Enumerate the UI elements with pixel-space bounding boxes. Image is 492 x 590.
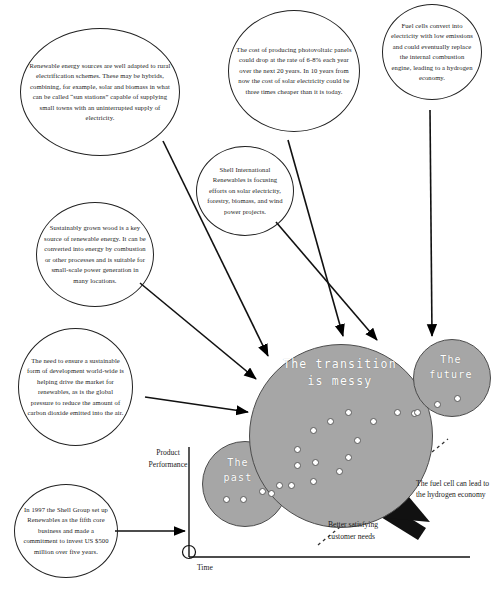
bubble-text: Shell International Renewables is focusi… <box>204 165 286 218</box>
bubble-photovoltaic-cost: The cost of producing photovoltaic panel… <box>228 10 360 132</box>
scenario-dot <box>310 427 317 434</box>
scenario-dot <box>310 478 317 485</box>
bubble-text: In 1997 the Shell Group set up Renewable… <box>22 505 110 558</box>
bubble-text: The cost of producing photovoltaic panel… <box>236 45 352 98</box>
scenario-dot <box>414 409 421 416</box>
bubble-text: The need to ensure a sustainable form of… <box>26 356 125 419</box>
y-axis-label: Product Performance <box>146 447 190 470</box>
scenario-dot <box>354 437 361 444</box>
scenario-dot <box>240 496 247 503</box>
fuel-cell-callout-label: The fuel cell can lead to the hydrogen e… <box>416 478 492 500</box>
scenario-dot <box>336 468 343 475</box>
y-axis-label-line1: Product <box>146 447 190 459</box>
connector-shellintl-to-transition <box>276 222 377 340</box>
scenario-dot <box>327 418 334 425</box>
y-axis-label-line2: Performance <box>146 459 190 471</box>
x-axis-label-text: Time <box>197 563 213 572</box>
connector-fuelcells-to-future <box>430 110 432 336</box>
scenario-dot <box>288 482 295 489</box>
scenario-circle-the-future <box>413 339 491 417</box>
scenario-dot <box>268 490 275 497</box>
scenario-dot <box>370 418 377 425</box>
bubble-renewable-energy-sources: Renewable energy sources are well adapte… <box>20 28 180 156</box>
scenario-dot <box>312 459 319 466</box>
scenario-dot <box>276 482 283 489</box>
bubble-shell-international-renewables: Shell International Renewables is focusi… <box>196 146 294 236</box>
bubble-shell-group-1997: In 1997 the Shell Group set up Renewable… <box>14 484 118 578</box>
bubble-text: Fuel cells convert into electricity with… <box>390 21 474 84</box>
scenario-circle-the-transition <box>249 344 433 528</box>
bubble-fuel-cells: Fuel cells convert into electricity with… <box>382 4 482 100</box>
trend-annotation-line1: Better satisfying <box>328 519 448 531</box>
scenario-dot <box>294 446 301 453</box>
scenario-dot <box>345 454 352 461</box>
bubble-sustainably-grown-wood: Sustainably grown wood is a key source o… <box>36 202 154 307</box>
trend-annotation-line2: customer needs <box>328 531 448 543</box>
scenario-dot <box>434 401 441 408</box>
scenario-dot <box>394 409 401 416</box>
scenario-dot <box>294 462 301 469</box>
scenario-dot <box>345 409 352 416</box>
scenario-dot <box>223 496 230 503</box>
fuel-cell-callout-text: The fuel cell can lead to the hydrogen e… <box>416 479 489 499</box>
bubble-text: Renewable energy sources are well adapte… <box>28 61 172 124</box>
bubble-sustainable-development: The need to ensure a sustainable form of… <box>18 328 133 446</box>
x-axis-label: Time <box>197 562 237 574</box>
scenario-dot <box>454 395 461 402</box>
bubble-text: Sustainably grown wood is a key source o… <box>44 223 146 286</box>
trend-annotation: Better satisfying customer needs <box>328 519 448 542</box>
connector-photovoltaic-to-transition <box>288 140 343 336</box>
connector-development-to-transition <box>145 397 248 412</box>
scenario-dot <box>259 488 266 495</box>
